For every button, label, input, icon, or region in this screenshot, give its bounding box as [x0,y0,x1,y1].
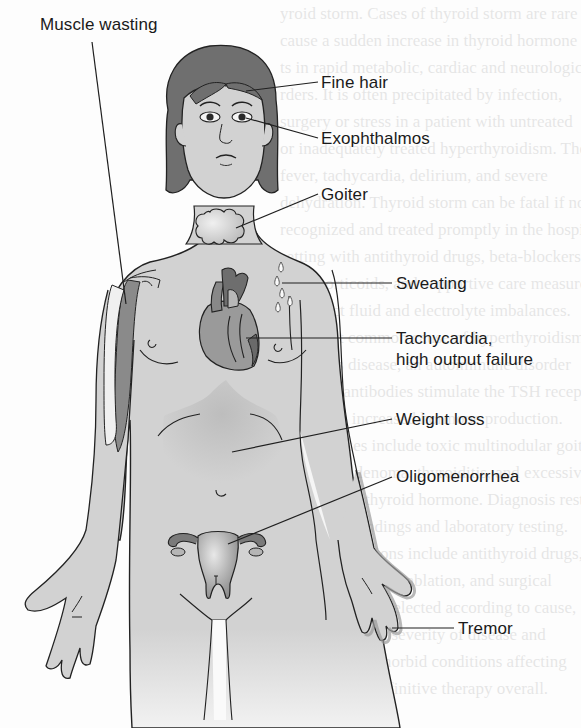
label-exophthalmos: Exophthalmos [321,128,430,149]
label-goiter: Goiter [321,184,368,205]
label-tachycardia: Tachycardia, [396,328,493,349]
goiter-thyroid [196,209,244,244]
diagram-canvas: yroid storm. Cases of thyroid storm are … [0,0,581,728]
label-sweating: Sweating [396,273,467,294]
label-high-output-failure: high output failure [396,349,533,370]
label-tremor: Tremor [458,618,513,639]
label-oligomenorrhea: Oligomenorrhea [396,466,519,487]
leader-muscle-wasting [92,42,126,304]
label-weight-loss: Weight loss [396,409,485,430]
label-fine-hair: Fine hair [321,72,388,93]
label-muscle-wasting: Muscle wasting [40,14,158,35]
